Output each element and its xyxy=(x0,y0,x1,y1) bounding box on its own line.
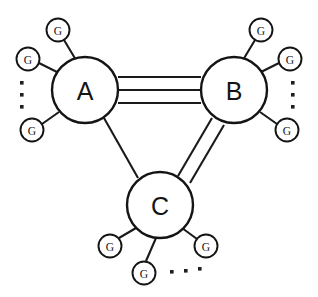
leaf-node-a-2-label: G xyxy=(24,54,32,66)
edge-a-b[interactable] xyxy=(118,77,201,103)
ellipsis-b-dot-2 xyxy=(291,93,295,97)
edge-b-c-line-1 xyxy=(178,118,212,176)
node-c-label: C xyxy=(151,192,169,220)
leaf-stem-a-2 xyxy=(39,63,57,72)
node-b-label: B xyxy=(226,77,243,105)
ellipsis-c-dot-3 xyxy=(198,267,202,271)
leaf-node-a-3-label: G xyxy=(28,125,36,137)
leaf-node-a-1[interactable]: G xyxy=(47,19,70,42)
leaf-stem-a-3 xyxy=(42,112,59,124)
leaf-stem-b-1 xyxy=(243,40,255,60)
ellipsis-a-dot-3 xyxy=(20,105,24,109)
ellipsis-c-dot-2 xyxy=(184,269,188,273)
leaf-node-b-1-label: G xyxy=(257,25,265,37)
leaf-stem-b-2 xyxy=(261,63,279,72)
leaf-node-b-1[interactable]: G xyxy=(250,19,273,42)
ellipsis-b-icon xyxy=(291,81,295,109)
leaf-stem-c-3 xyxy=(182,228,197,239)
leaf-node-c-1[interactable]: G xyxy=(99,235,122,258)
graph-diagram-canvas: A B C G G G xyxy=(0,0,318,297)
leaf-node-b-3-label: G xyxy=(283,125,291,137)
node-b[interactable]: B xyxy=(201,57,267,123)
node-a-label: A xyxy=(77,77,94,105)
ellipsis-a-dot-1 xyxy=(20,81,24,85)
ellipsis-c-icon xyxy=(170,267,202,274)
leaf-stem-c-1 xyxy=(119,228,136,238)
node-a[interactable]: A xyxy=(52,57,118,123)
leaf-node-b-3[interactable]: G xyxy=(276,119,299,142)
ellipsis-b-dot-3 xyxy=(291,105,295,109)
leaf-node-c-2-label: G xyxy=(140,268,148,280)
ellipsis-a-dot-2 xyxy=(20,93,24,97)
leaf-stem-a-1 xyxy=(64,40,76,60)
ellipsis-b-dot-1 xyxy=(291,81,295,85)
node-c[interactable]: C xyxy=(127,172,193,238)
leaf-node-a-2[interactable]: G xyxy=(17,48,40,71)
edge-a-c-line-1 xyxy=(104,118,138,178)
leaf-node-a-1-label: G xyxy=(54,25,62,37)
leaf-node-c-2[interactable]: G xyxy=(133,262,156,285)
leaf-nodes-layer: G G G G G G xyxy=(17,19,302,285)
leaf-stem-c-2 xyxy=(146,238,156,261)
edge-b-c-line-2 xyxy=(190,125,224,183)
leaf-node-b-2-label: G xyxy=(286,54,294,66)
leaf-node-c-3-label: G xyxy=(202,241,210,253)
graph-svg: A B C G G G xyxy=(0,0,318,297)
edge-a-c[interactable] xyxy=(104,118,138,178)
leaf-node-a-3[interactable]: G xyxy=(21,119,44,142)
leaf-node-c-3[interactable]: G xyxy=(195,235,218,258)
edge-b-c[interactable] xyxy=(178,118,224,183)
nodes-layer: A B C xyxy=(52,57,267,238)
ellipsis-a-icon xyxy=(20,81,24,109)
leaf-stem-b-3 xyxy=(260,112,277,124)
leaf-node-b-2[interactable]: G xyxy=(279,48,302,71)
ellipsis-c-dot-1 xyxy=(170,270,174,274)
leaf-node-c-1-label: G xyxy=(106,241,114,253)
